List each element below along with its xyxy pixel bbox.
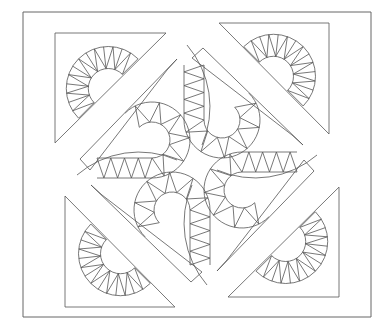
straight-spikes — [242, 152, 297, 172]
corner-fan-inner-arc — [259, 56, 293, 90]
corner-fan-outer-arc — [256, 212, 328, 284]
corner-fan-divider — [135, 268, 151, 284]
corner-fan-inner-arc — [88, 69, 122, 103]
corner-fan-divider — [127, 273, 134, 294]
corner-fan-divider — [81, 240, 102, 247]
quadrant-top-left — [55, 33, 210, 178]
corner-fan-divider — [115, 49, 122, 70]
center-arc-inner — [139, 122, 170, 158]
corner-fan-inner-arc — [272, 227, 306, 261]
straight-spikes — [190, 210, 210, 265]
corner-fan-spikes — [67, 47, 131, 111]
corner-fan-divider — [272, 260, 279, 281]
corner-fan-spikes — [251, 35, 315, 99]
center-arc-spikes — [135, 103, 190, 176]
corner-fan-divider — [91, 224, 107, 240]
corner-fan-divider — [73, 66, 92, 78]
diagonal-strip — [91, 185, 202, 282]
corner-fan-divider — [244, 47, 260, 63]
corner-fan-divider — [79, 103, 95, 119]
quilt-block-drawing — [0, 0, 391, 328]
quadrant-bottom-right — [184, 152, 339, 297]
corner-fan-divider — [288, 90, 304, 106]
corner-fan-divider — [256, 256, 272, 272]
corner-fan-inner-arc — [101, 240, 135, 274]
corner-fan-outer-arc — [244, 34, 316, 106]
corner-fan-divider — [305, 228, 326, 235]
corner-fan-divider — [98, 271, 110, 290]
corner-fan-spikes — [263, 219, 327, 283]
straight-spikes — [97, 158, 152, 178]
corner-fan-divider — [260, 37, 267, 58]
straight-spikes — [184, 65, 204, 120]
corner-fan-outer-arc — [79, 224, 151, 296]
corner-fan-spikes — [79, 231, 143, 295]
quadrant-top-right — [184, 23, 329, 178]
diagonal-strip — [80, 59, 177, 170]
center-arc-inner — [204, 107, 240, 138]
corner-fan-divider — [303, 252, 322, 264]
center-arc-inner — [154, 192, 190, 223]
diagonal-strip — [217, 160, 314, 271]
corner-fan-divider — [122, 59, 138, 75]
corner-fan-divider — [284, 41, 296, 60]
quadrant-group — [55, 23, 339, 307]
center-arc-spikes — [204, 154, 259, 227]
corner-fan-divider — [300, 212, 316, 228]
center-arc-spikes — [135, 172, 208, 227]
corner-fan-outer-arc — [66, 47, 138, 119]
diagonal-strip — [192, 48, 303, 145]
corner-fan-divider — [292, 83, 313, 90]
quadrant-bottom-left — [65, 152, 210, 307]
center-arc-spikes — [186, 103, 259, 158]
center-arc-inner — [224, 172, 255, 208]
corner-fan-divider — [69, 95, 90, 102]
